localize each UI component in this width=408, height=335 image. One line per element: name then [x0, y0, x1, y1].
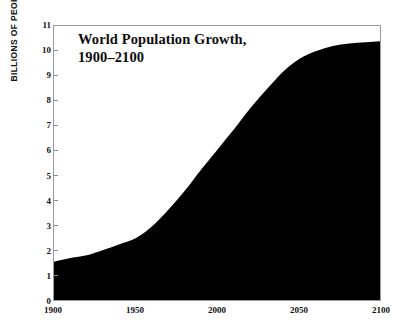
y-tick-mark-4	[53, 200, 58, 201]
y-tick-mark-10	[53, 50, 58, 51]
y-tick-mark-3	[53, 225, 58, 226]
y-tick-mark-2	[53, 250, 58, 251]
chart-title: World Population Growth, 1900–2100	[78, 30, 293, 66]
x-tick-label-1900: 1900	[31, 305, 75, 315]
chart-title-line1: World Population Growth,	[78, 31, 247, 47]
x-tick-label-2000: 2000	[195, 305, 239, 315]
y-tick-mark-5	[53, 175, 58, 176]
x-tick-label-1950: 1950	[113, 305, 157, 315]
y-tick-mark-9	[53, 75, 58, 76]
x-tick-label-2050: 2050	[277, 305, 321, 315]
chart-figure: BILLIONS OF PEOPLE 11109876543210 190019…	[0, 0, 408, 335]
y-tick-mark-1	[53, 275, 58, 276]
plot-area	[53, 25, 381, 301]
y-tick-mark-8	[53, 100, 58, 101]
population-area-series	[54, 26, 381, 301]
x-tick-label-2100: 2100	[359, 305, 403, 315]
y-tick-mark-7	[53, 125, 58, 126]
y-tick-mark-6	[53, 150, 58, 151]
chart-title-line2: 1900–2100	[78, 48, 293, 66]
